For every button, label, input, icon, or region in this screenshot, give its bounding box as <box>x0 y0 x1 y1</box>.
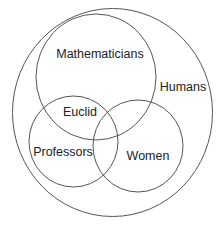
mathematicians-circle <box>36 14 156 140</box>
humans-circle <box>13 9 213 217</box>
mathematicians-label: Mathematicians <box>56 47 144 61</box>
set-circles <box>13 9 213 217</box>
venn-diagram: Humans Mathematicians Professors Women E… <box>0 0 221 225</box>
professors-label: Professors <box>33 145 93 159</box>
set-labels: Humans Mathematicians Professors Women E… <box>33 47 206 163</box>
women-circle <box>93 100 183 192</box>
euclid-label: Euclid <box>63 105 97 119</box>
women-label: Women <box>127 149 170 163</box>
humans-label: Humans <box>160 80 207 94</box>
